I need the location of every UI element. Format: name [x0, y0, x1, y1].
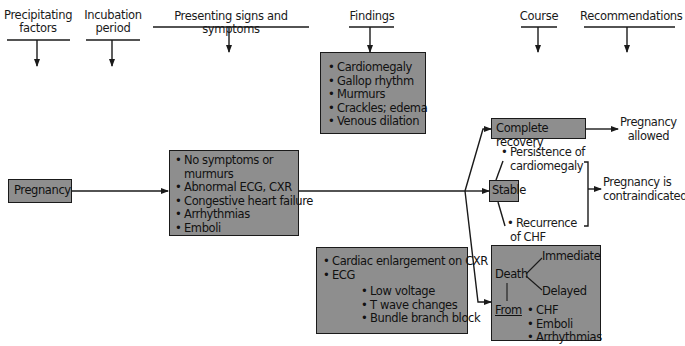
header-findings: Findings [345, 10, 399, 23]
stable-box: Stable [489, 180, 519, 202]
header-precipitating-line2: factors [4, 22, 72, 35]
header-recommendations: Recommendations [580, 10, 680, 23]
diagnostic-item: Cardiac enlargement on CXR [322, 255, 462, 269]
recurrence-annotation: Recurrence of CHF [506, 217, 577, 244]
header-precipitating-factors: Precipitating factors [4, 9, 72, 35]
findings-item: Venous dilation [327, 115, 419, 129]
death-cause-item: Emboli [526, 318, 602, 332]
presenting-signs-box: No symptoms or murmurs Abnormal ECG, CXR… [169, 150, 299, 236]
allowed-line2: allowed [620, 130, 677, 144]
diagnostic-findings-list: Cardiac enlargement on CXR ECG [322, 255, 462, 282]
presenting-signs-list: No symptoms or murmurs Abnormal ECG, CXR… [174, 154, 294, 235]
ecg-item: Low voltage [360, 285, 462, 299]
stable-label: Stable [492, 183, 526, 197]
header-presenting-signs: Presenting signs and symptoms [150, 10, 312, 36]
contra-line2: contraindicated [603, 190, 685, 204]
pregnancy-box: Pregnancy [8, 179, 72, 203]
contra-line1: Pregnancy is [603, 176, 685, 190]
header-course: Course [516, 10, 562, 23]
diagnostic-item: ECG [322, 269, 462, 283]
pregnancy-label: Pregnancy [14, 183, 71, 197]
pregnancy-contraindicated-label: Pregnancy is contraindicated [603, 176, 685, 203]
header-incubation-line2: period [84, 22, 142, 35]
ecg-item: T wave changes [360, 299, 462, 313]
death-cause-item: CHF [526, 304, 602, 318]
ecg-item: Bundle branch block [360, 312, 462, 326]
death-causes-list: CHF Emboli Arrhythmias [526, 304, 602, 345]
death-box: Death Immediate Delayed From CHF Emboli … [491, 245, 601, 341]
presenting-item: Abnormal ECG, CXR [174, 181, 294, 195]
diagnostic-findings-box: Cardiac enlargement on CXR ECG Low volta… [316, 247, 468, 334]
recurrence-line1: Recurrence [506, 217, 577, 231]
findings-item: Murmurs [327, 88, 419, 102]
presenting-item-continuation: murmurs [174, 168, 294, 182]
persistence-line2: cardiomegaly [500, 160, 585, 174]
findings-item: Cardiomegaly [327, 61, 419, 75]
findings-box: Cardiomegaly Gallop rhythm Murmurs Crack… [320, 52, 426, 134]
pregnancy-allowed-label: Pregnancy allowed [620, 116, 677, 143]
complete-recovery-box: Complete recovery [491, 118, 586, 139]
presenting-item: Emboli [174, 222, 294, 236]
findings-list: Cardiomegaly Gallop rhythm Murmurs Crack… [327, 61, 419, 129]
allowed-line1: Pregnancy [620, 116, 677, 130]
persistence-line1: Persistence of [500, 146, 585, 160]
recurrence-line2: of CHF [500, 231, 577, 245]
presenting-item: Congestive heart failure [174, 195, 294, 209]
ecg-sublist: Low voltage T wave changes Bundle branch… [360, 285, 462, 326]
findings-item: Gallop rhythm [327, 75, 419, 89]
presenting-item: Arrhythmias [174, 208, 294, 222]
persistence-annotation: Persistence of cardiomegaly [500, 146, 585, 173]
presenting-item: No symptoms or [174, 154, 294, 168]
findings-item: Crackles; edema [327, 102, 419, 116]
death-cause-item: Arrhythmias [526, 331, 602, 345]
header-incubation-period: Incubation period [84, 9, 142, 35]
